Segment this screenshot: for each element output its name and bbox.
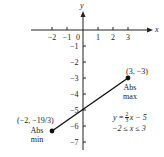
x-tick-label: −1: [59, 33, 75, 42]
domain-label: −2 ≤ x ≤ 3: [112, 124, 146, 133]
y-tick-label: −5: [70, 106, 79, 115]
abs-min-point: [50, 129, 55, 134]
y-tick-label: −7: [70, 138, 79, 147]
abs-max-label-line1: Abs: [120, 83, 140, 92]
abs-max-point: [126, 76, 131, 81]
y-axis-arrow-icon: [81, 11, 86, 17]
x-axis-arrow-icon: [147, 28, 153, 33]
equation-fraction: 2 3: [125, 112, 129, 123]
x-tick-label: 3: [124, 33, 132, 42]
x-axis-label: x: [155, 25, 159, 34]
y-tick-label: −6: [70, 122, 79, 131]
y-axis-label: y: [80, 1, 84, 10]
origin-label: 0: [74, 33, 82, 42]
x-tick-label: −2: [44, 33, 60, 42]
plot-canvas: [0, 0, 164, 157]
abs-min-label-line2: min: [27, 135, 47, 144]
equation-prefix: y =: [113, 113, 124, 122]
y-tick-label: −2: [70, 58, 79, 67]
fraction-denominator: 3: [125, 118, 128, 123]
x-tick-label: 1: [94, 33, 102, 42]
abs-max-label-line2: max: [120, 92, 140, 101]
x-tick-label: 2: [109, 33, 117, 42]
y-tick-label: −4: [70, 90, 79, 99]
equation-suffix: x − 5: [130, 113, 147, 122]
equation-label: y = 2 3 x − 5: [113, 112, 147, 123]
abs-min-coordinate-label: (−2, −19/3): [17, 116, 54, 125]
y-tick-label: −3: [70, 74, 79, 83]
abs-min-label-line1: Abs: [27, 126, 47, 135]
abs-max-coordinate-label: (3, −3): [126, 67, 148, 76]
y-tick-label: −1: [70, 42, 79, 51]
